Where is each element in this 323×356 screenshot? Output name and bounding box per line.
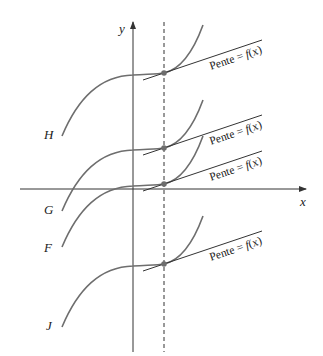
slope-label-G: Pente = f(x): [208, 118, 264, 148]
x-axis-label: x: [299, 194, 306, 209]
slope-label-H: Pente = f(x): [208, 43, 264, 73]
tangent-point-J: [161, 261, 167, 267]
slope-label-J: Pente = f(x): [208, 234, 264, 264]
tangents-layer: [143, 40, 262, 271]
tangent-point-H: [161, 70, 167, 76]
curve-label-G: G: [44, 202, 54, 217]
tangent-point-F: [161, 181, 167, 187]
slope-label-F: Pente = f(x): [208, 154, 264, 184]
antiderivative-family-diagram: x y HGFJPente = f(x)Pente = f(x)Pente = …: [0, 0, 323, 356]
tangent-point-G: [161, 145, 167, 151]
curve-label-F: F: [43, 240, 53, 255]
curve-label-J: J: [46, 318, 53, 333]
labels-layer: HGFJPente = f(x)Pente = f(x)Pente = f(x)…: [43, 43, 264, 333]
y-axis-label: y: [117, 21, 125, 36]
curve-label-H: H: [43, 127, 54, 142]
